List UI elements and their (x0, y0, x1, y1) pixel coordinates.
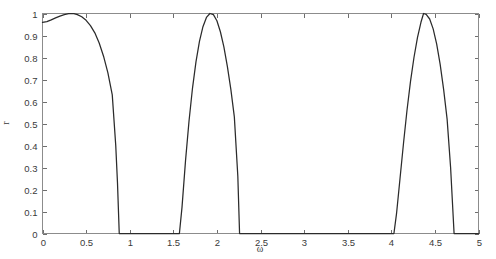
plot-canvas: 00.511.522.533.544.55 00.10.20.30.40.50.… (0, 0, 496, 259)
y-tick-label: 0.3 (24, 163, 37, 174)
x-tick-label: 3.5 (342, 237, 355, 248)
x-tick-label: 4 (389, 237, 394, 248)
x-tick-label: 0.5 (80, 237, 93, 248)
x-tick-label: 2 (215, 237, 220, 248)
x-tick-label: 1 (128, 237, 133, 248)
y-tick-label: 0.8 (24, 53, 37, 64)
y-tick-label: 0.4 (24, 141, 37, 152)
y-tick-label: 0.2 (24, 185, 37, 196)
y-tick-label: 0.7 (24, 75, 37, 86)
y-tick-label: 0.1 (24, 207, 37, 218)
y-tick-label: 0.9 (24, 31, 37, 42)
y-tick-label: 0.5 (24, 119, 37, 130)
x-tick-label: 3 (302, 237, 307, 248)
figure-background (0, 0, 496, 259)
x-tick-label: 0 (41, 237, 46, 248)
y-tick-label: 0.6 (24, 97, 37, 108)
x-tick-label: 1.5 (167, 237, 180, 248)
x-axis-label: ω (257, 243, 264, 254)
y-tick-label: 1 (32, 9, 37, 20)
x-tick-label: 4.5 (429, 237, 442, 248)
y-tick-label: 0 (32, 229, 37, 240)
figure-container: 00.511.522.533.544.55 00.10.20.30.40.50.… (0, 0, 496, 259)
x-tick-label: 5 (477, 237, 482, 248)
